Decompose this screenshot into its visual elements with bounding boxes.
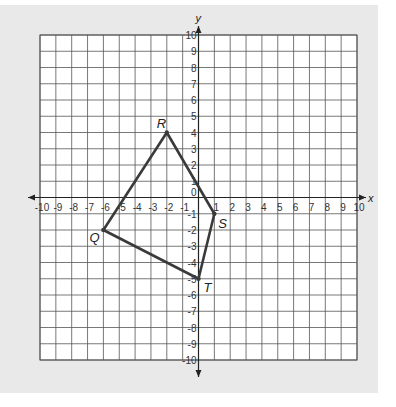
x-tick-label: 5 [277,202,283,213]
y-tick-label: -3 [188,241,197,252]
vertex-point-q [101,228,105,232]
x-tick-label: 4 [261,202,267,213]
y-tick-label: 8 [191,63,197,74]
y-tick-label: -1 [188,209,197,220]
x-tick-label: 2 [229,202,235,213]
x-tick-label: -9 [53,202,62,213]
vertex-point-t [196,277,200,281]
coordinate-plane: xy-10-9-8-7-6-5-4-3-2-112345678910109876… [0,0,396,407]
vertex-label-t: T [204,280,213,295]
y-tick-label: 7 [191,79,197,90]
x-axis-right-arrow-icon [359,195,366,201]
x-tick-label: 3 [245,202,251,213]
y-tick-label: -9 [188,339,197,350]
vertex-label-q: Q [89,230,99,245]
origin-label: 0 [191,187,197,198]
x-tick-label: 9 [340,202,346,213]
x-tick-label: -4 [133,202,142,213]
vertex-point-r [165,130,169,134]
y-tick-label: -8 [188,323,197,334]
vertex-label-r: R [157,116,166,131]
y-tick-label: 9 [191,46,197,57]
x-tick-label: 10 [353,202,365,213]
vertex-point-s [212,212,216,216]
x-tick-label: 6 [293,202,299,213]
x-axis-label: x [367,192,374,204]
x-tick-label: 8 [325,202,331,213]
y-tick-label: -4 [188,258,197,269]
x-tick-label: -7 [85,202,94,213]
x-tick-label: 1 [214,202,220,213]
y-tick-label: 2 [191,160,197,171]
vertex-label-s: S [218,216,227,231]
x-tick-label: -8 [69,202,78,213]
y-tick-label: -6 [188,290,197,301]
y-tick-label: 5 [191,111,197,122]
y-tick-label: 4 [191,128,197,139]
y-axis-down-arrow-icon [196,370,202,377]
x-axis-left-arrow-icon [28,195,35,201]
y-tick-label: 10 [185,30,197,41]
x-tick-label: 7 [309,202,315,213]
y-tick-label: 3 [191,144,197,155]
y-tick-label: -7 [188,306,197,317]
x-tick-label: -2 [164,202,173,213]
x-tick-label: -3 [148,202,157,213]
y-tick-label: -2 [188,225,197,236]
y-tick-label: -10 [182,355,197,366]
y-tick-label: 6 [191,95,197,106]
x-tick-label: -6 [101,202,110,213]
x-tick-label: -10 [35,202,50,213]
y-axis-label: y [195,12,203,24]
